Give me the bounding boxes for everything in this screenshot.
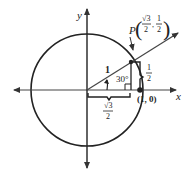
p-x-numerator: √3: [142, 14, 150, 23]
x-axis-label: x: [175, 90, 181, 102]
angle-label: 30°: [116, 74, 129, 84]
p-x-denominator: 2: [144, 25, 148, 34]
p-y-denominator: 2: [157, 25, 161, 34]
adjacent-bracket: [88, 93, 130, 100]
point-p: [129, 60, 133, 64]
hypotenuse-label: 1: [105, 64, 110, 75]
adjacent-denominator: 2: [106, 112, 110, 121]
p-comma: ,: [152, 20, 154, 29]
unit-circle-diagram: y x P ( ) √3 2 , 1 2 1 30° 1 2 √3 2 (1, …: [0, 0, 189, 183]
p-close-paren: ): [163, 16, 170, 41]
opposite-numerator: 1: [147, 63, 151, 72]
p-pointer-arrow: [130, 37, 133, 50]
adjacent-numerator: √3: [104, 101, 112, 110]
point-unit-label: (1, 0): [137, 94, 157, 104]
angle-arrow-head: [104, 79, 109, 84]
y-axis-label: y: [76, 9, 82, 21]
right-angle-marker: [125, 84, 131, 90]
opposite-denominator: 2: [147, 74, 151, 83]
p-y-numerator: 1: [157, 14, 161, 23]
